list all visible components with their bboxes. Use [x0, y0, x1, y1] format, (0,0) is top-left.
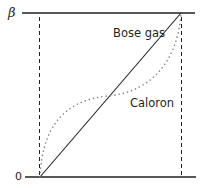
caloron-label: Caloron — [130, 98, 174, 110]
bose-gas-label: Bose gas — [113, 28, 165, 40]
zero-label: 0 — [15, 171, 22, 182]
diagram: β 0 Bose gas Caloron — [0, 0, 203, 188]
beta-label: β — [8, 6, 16, 19]
